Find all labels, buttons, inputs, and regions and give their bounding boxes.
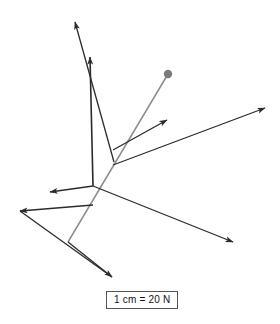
pivot-dot bbox=[164, 70, 172, 78]
plain-line-group bbox=[20, 74, 168, 277]
vector-up-vertical bbox=[90, 57, 93, 186]
vector-up-left-long bbox=[75, 22, 114, 162]
lower-left-segment bbox=[20, 211, 112, 277]
scale-legend: 1 cm = 20 N bbox=[106, 291, 178, 309]
pivot-rod bbox=[68, 74, 168, 242]
scale-legend-text: 1 cm = 20 N bbox=[114, 294, 170, 305]
vector-lower-right bbox=[93, 186, 233, 242]
vector-left bbox=[50, 186, 93, 192]
vector-down bbox=[68, 242, 112, 277]
vector-right-far bbox=[113, 108, 265, 165]
vector-right-mid bbox=[113, 120, 167, 150]
force-vector-diagram: 1 cm = 20 N bbox=[0, 0, 280, 324]
vector-canvas bbox=[0, 0, 280, 324]
vector-line-group bbox=[20, 22, 265, 277]
vector-lower-left bbox=[20, 205, 93, 211]
pivot-group bbox=[164, 70, 172, 78]
